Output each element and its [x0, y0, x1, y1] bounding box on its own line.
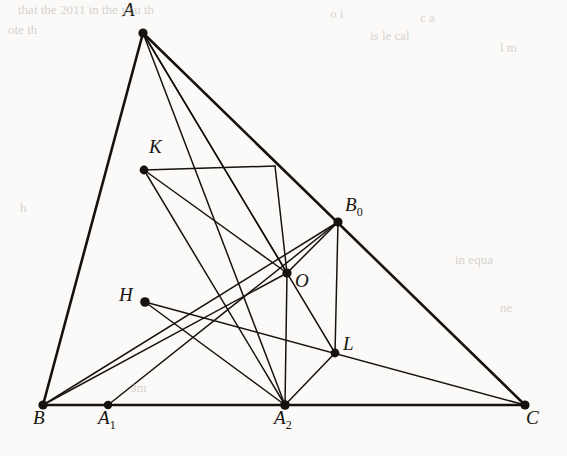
perpendicular-O-A2	[285, 273, 287, 405]
side-AB	[43, 33, 143, 405]
scan-bleed-text-0: that the 2011 in the you th	[18, 2, 154, 18]
point-label-b: B	[33, 407, 45, 429]
segments-layer	[43, 33, 525, 405]
point-label-a2: A2	[274, 407, 292, 433]
point-label-subscript: 2	[286, 418, 292, 432]
cevian-B-B0	[43, 222, 338, 405]
point-label-k: K	[149, 136, 162, 158]
scan-bleed-text-5: l m	[500, 40, 517, 56]
vertex-dot-l	[331, 349, 340, 358]
point-label-subscript: 1	[110, 418, 116, 432]
cevian-A1-B0	[108, 222, 338, 405]
scan-bleed-text-7: in equa	[455, 252, 493, 268]
point-label-l: L	[343, 333, 354, 355]
vertex-dot-b0	[333, 217, 342, 226]
point-label-a1: A1	[98, 407, 116, 433]
segment-L-A2	[285, 353, 335, 405]
point-label-c: C	[526, 407, 539, 429]
scan-bleed-text-1: ote th	[8, 22, 37, 38]
vertex-dot-h	[140, 297, 150, 307]
perpendicular-B0-L	[335, 222, 338, 353]
scan-bleed-text-2: o i	[330, 6, 343, 22]
point-label-subscript: 0	[357, 205, 363, 219]
segment-H-A2	[145, 302, 285, 405]
cevian-B-H-O	[43, 273, 287, 405]
scan-bleed-text-9: 3m	[130, 380, 147, 396]
vertex-dots-layer	[38, 28, 529, 409]
point-label-o: O	[295, 270, 309, 292]
scan-bleed-text-6: h	[20, 200, 27, 216]
geometry-figure	[0, 0, 567, 456]
figure-page: ABCA1A2KHOB0L that the 2011 in the you t…	[0, 0, 567, 456]
scan-bleed-text-8: ne	[500, 300, 512, 316]
altitude-A-A2	[143, 33, 285, 405]
vertex-dot-o	[282, 268, 291, 277]
segment-K-to-AC	[144, 166, 275, 170]
segment-K-O	[144, 170, 287, 273]
vertex-dot-a	[138, 28, 147, 37]
segment-O-B0	[287, 222, 338, 273]
vertex-dot-k	[140, 166, 149, 175]
scan-bleed-text-3: c a	[420, 10, 435, 26]
segment-K-A2	[144, 170, 285, 405]
point-label-b0: B0	[345, 194, 363, 220]
scan-bleed-text-4: is le cal	[370, 28, 410, 44]
point-label-h: H	[119, 284, 133, 306]
